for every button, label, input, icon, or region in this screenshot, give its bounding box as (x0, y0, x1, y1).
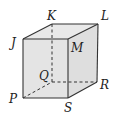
vertex-label-L: L (100, 9, 109, 23)
vertex-label-R: R (99, 78, 109, 92)
vertex-label-P: P (8, 92, 18, 106)
vertex-label-S: S (64, 101, 72, 115)
vertex-label-M: M (70, 41, 84, 55)
vertex-label-Q: Q (39, 69, 49, 83)
prism-diagram: K L J M Q R P S (0, 0, 115, 117)
vertex-label-K: K (46, 9, 57, 23)
vertex-label-J: J (8, 36, 17, 50)
